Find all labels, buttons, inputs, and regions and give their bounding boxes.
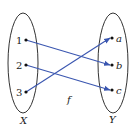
domain-point-3 (24, 90, 27, 93)
function-mapping-diagram: 123abc f X Y (0, 0, 136, 133)
codomain-point-a (110, 36, 113, 39)
codomain-point-c (110, 88, 113, 91)
codomain-point-b (110, 63, 113, 66)
codomain-element-label-b: b (116, 60, 122, 71)
codomain-label: Y (109, 114, 117, 125)
arrow-3-to-a (26, 38, 110, 92)
domain-set-ellipse (8, 13, 38, 113)
codomain-element-label-a: a (116, 33, 122, 44)
domain-element-label-3: 3 (16, 87, 22, 98)
domain-point-1 (24, 38, 27, 41)
domain-element-label-2: 2 (16, 60, 22, 71)
arrow-2-to-c (26, 65, 110, 90)
domain-element-label-1: 1 (16, 35, 22, 46)
function-label: f (66, 94, 73, 105)
domain-point-2 (24, 63, 27, 66)
codomain-element-label-c: c (116, 85, 122, 96)
domain-label: X (19, 115, 28, 126)
arrow-1-to-b (26, 40, 110, 65)
